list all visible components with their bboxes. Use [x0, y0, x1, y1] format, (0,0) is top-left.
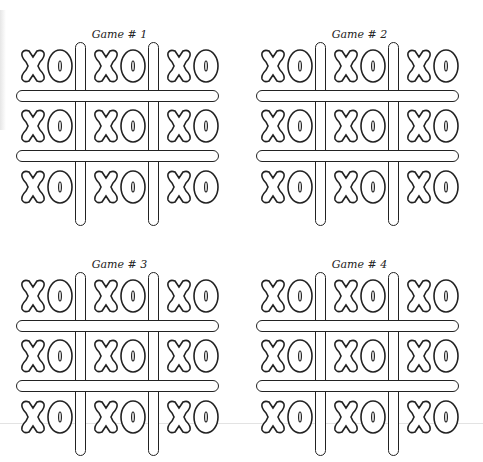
grid-cell[interactable] [402, 165, 464, 209]
grid-horizontal-bar [16, 320, 219, 332]
xo-glyph-icon [18, 337, 76, 375]
xo-glyph-icon [91, 107, 149, 145]
grid-cell[interactable] [89, 334, 151, 378]
xo-glyph-icon [258, 277, 316, 315]
grid-horizontal-bar [16, 90, 219, 102]
grid-cell[interactable] [402, 274, 464, 318]
grid-vertical-bar [315, 42, 326, 226]
xo-glyph-icon [258, 168, 316, 206]
xo-glyph-icon [91, 47, 149, 85]
grid-horizontal-bar [16, 150, 219, 162]
grid-cell[interactable] [162, 104, 224, 148]
xo-glyph-icon [258, 47, 316, 85]
xo-glyph-icon [18, 47, 76, 85]
xo-glyph-icon [258, 398, 316, 436]
game-board-1: Game # 1 [12, 28, 227, 228]
grid-cell[interactable] [402, 44, 464, 88]
xo-glyph-icon [404, 168, 462, 206]
xo-glyph-icon [331, 107, 389, 145]
grid-vertical-bar [388, 42, 399, 226]
game-board-3: Game # 3 [12, 258, 227, 458]
grid-cell[interactable] [162, 334, 224, 378]
grid-cell[interactable] [89, 165, 151, 209]
xo-glyph-icon [18, 168, 76, 206]
xo-glyph-icon [91, 337, 149, 375]
grid-cell[interactable] [402, 334, 464, 378]
grid-cell[interactable] [329, 395, 391, 439]
xo-glyph-icon [164, 107, 222, 145]
tic-tac-toe-grid [12, 272, 227, 456]
grid-vertical-bar [388, 272, 399, 456]
xo-glyph-icon [164, 47, 222, 85]
grid-horizontal-bar [256, 90, 459, 102]
grid-cell[interactable] [89, 274, 151, 318]
xo-glyph-icon [164, 398, 222, 436]
game-title: Game # 2 [252, 28, 467, 41]
xo-glyph-icon [91, 398, 149, 436]
grid-cell[interactable] [256, 165, 318, 209]
grid-cell[interactable] [256, 44, 318, 88]
xo-glyph-icon [91, 168, 149, 206]
xo-glyph-icon [18, 277, 76, 315]
xo-glyph-icon [404, 107, 462, 145]
xo-glyph-icon [258, 337, 316, 375]
grid-cell[interactable] [329, 274, 391, 318]
game-title: Game # 1 [12, 28, 227, 41]
grid-cell[interactable] [329, 334, 391, 378]
xo-glyph-icon [331, 168, 389, 206]
xo-glyph-icon [18, 107, 76, 145]
grid-cell[interactable] [16, 334, 78, 378]
xo-glyph-icon [331, 277, 389, 315]
grid-cell[interactable] [162, 274, 224, 318]
grid-cell[interactable] [256, 395, 318, 439]
grid-vertical-bar [315, 272, 326, 456]
xo-glyph-icon [164, 277, 222, 315]
grid-cell[interactable] [256, 104, 318, 148]
xo-glyph-icon [331, 398, 389, 436]
grid-cell[interactable] [402, 395, 464, 439]
grid-horizontal-bar [256, 150, 459, 162]
grid-cell[interactable] [256, 334, 318, 378]
grid-vertical-bar [148, 272, 159, 456]
grid-cell[interactable] [162, 44, 224, 88]
grid-cell[interactable] [329, 104, 391, 148]
grid-cell[interactable] [16, 165, 78, 209]
game-title: Game # 4 [252, 258, 467, 271]
grid-cell[interactable] [16, 274, 78, 318]
game-board-4: Game # 4 [252, 258, 467, 458]
scan-shadow-edge [0, 10, 6, 130]
xo-glyph-icon [404, 337, 462, 375]
grid-cell[interactable] [89, 44, 151, 88]
grid-cell[interactable] [402, 104, 464, 148]
grid-cell[interactable] [89, 395, 151, 439]
xo-glyph-icon [18, 398, 76, 436]
tic-tac-toe-grid [12, 42, 227, 226]
grid-vertical-bar [75, 272, 86, 456]
xo-glyph-icon [164, 168, 222, 206]
grid-horizontal-bar [16, 380, 219, 392]
xo-glyph-icon [404, 47, 462, 85]
grid-cell[interactable] [16, 44, 78, 88]
grid-cell[interactable] [329, 165, 391, 209]
xo-glyph-icon [404, 398, 462, 436]
grid-horizontal-bar [256, 320, 459, 332]
grid-cell[interactable] [89, 104, 151, 148]
grid-cell[interactable] [16, 104, 78, 148]
grid-cell[interactable] [16, 395, 78, 439]
grid-cell[interactable] [256, 274, 318, 318]
xo-glyph-icon [91, 277, 149, 315]
tic-tac-toe-grid [252, 272, 467, 456]
grid-horizontal-bar [256, 380, 459, 392]
grid-cell[interactable] [329, 44, 391, 88]
game-title: Game # 3 [12, 258, 227, 271]
xo-glyph-icon [164, 337, 222, 375]
grid-cell[interactable] [162, 395, 224, 439]
grid-vertical-bar [148, 42, 159, 226]
grid-cell[interactable] [162, 165, 224, 209]
xo-glyph-icon [258, 107, 316, 145]
xo-glyph-icon [331, 47, 389, 85]
tic-tac-toe-grid [252, 42, 467, 226]
grid-vertical-bar [75, 42, 86, 226]
game-board-2: Game # 2 [252, 28, 467, 228]
xo-glyph-icon [331, 337, 389, 375]
